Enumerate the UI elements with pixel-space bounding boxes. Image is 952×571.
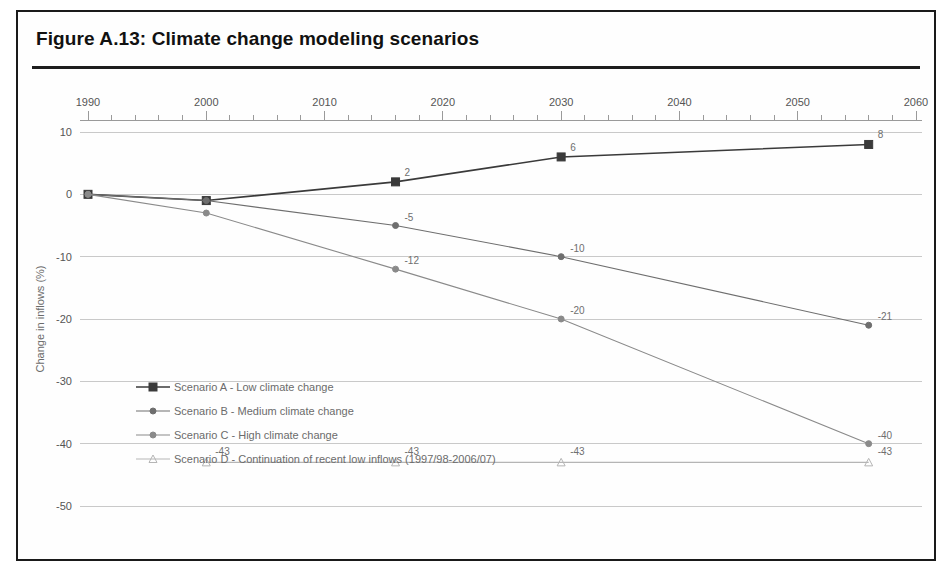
chart-plot-area: 19902000201020202030204020502060 100-10-… <box>18 74 934 559</box>
legend-item[interactable]: Scenario B - Medium climate change <box>136 405 354 417</box>
data-point-marker <box>203 198 209 204</box>
chart-legend: Scenario A - Low climate changeScenario … <box>136 381 496 465</box>
data-point-marker <box>557 153 565 161</box>
data-point-marker <box>393 266 399 272</box>
y-tick-labels-group: 100-10-20-30-40-50 <box>56 126 72 512</box>
title-divider <box>32 66 920 69</box>
data-point-marker <box>866 322 872 328</box>
data-point-label: 6 <box>570 142 576 153</box>
y-tick-label: -30 <box>56 375 72 387</box>
y-tick-label: 10 <box>60 126 72 138</box>
x-tick-label: 2010 <box>312 96 336 108</box>
data-point-marker <box>150 432 156 438</box>
x-tick-label: 1990 <box>76 96 100 108</box>
data-point-label: 2 <box>405 167 411 178</box>
data-point-label: 8 <box>878 129 884 140</box>
legend-item[interactable]: Scenario D - Continuation of recent low … <box>136 453 496 465</box>
data-point-marker <box>203 210 209 216</box>
data-point-marker <box>558 254 564 260</box>
legend-label: Scenario C - High climate change <box>174 429 338 441</box>
data-point-marker <box>150 408 156 414</box>
y-tick-label: -40 <box>56 438 72 450</box>
line-chart: 19902000201020202030204020502060 100-10-… <box>18 74 934 559</box>
legend-item[interactable]: Scenario A - Low climate change <box>136 381 334 393</box>
figure-panel: Figure A.13: Climate change modeling sce… <box>16 10 936 561</box>
data-point-marker <box>85 191 91 197</box>
x-tick-label: 2030 <box>549 96 573 108</box>
legend-label: Scenario D - Continuation of recent low … <box>174 453 496 465</box>
data-point-label: -43 <box>570 446 585 457</box>
x-tick-label: 2040 <box>667 96 691 108</box>
data-point-marker <box>865 140 873 148</box>
data-point-marker <box>393 223 399 229</box>
data-series-group <box>84 140 873 465</box>
y-axis-title-group: Change in inflows (%) <box>34 266 46 373</box>
gridlines-group <box>80 132 922 506</box>
y-tick-label: -50 <box>56 500 72 512</box>
x-axis-group: 19902000201020202030204020502060 <box>76 96 928 120</box>
y-tick-label: -20 <box>56 313 72 325</box>
y-tick-label: 0 <box>66 188 72 200</box>
x-tick-label: 2060 <box>904 96 928 108</box>
data-point-label: -40 <box>878 430 893 441</box>
data-point-label: -21 <box>878 311 893 322</box>
data-point-marker <box>392 178 400 186</box>
x-tick-label: 2000 <box>194 96 218 108</box>
data-point-label: -20 <box>570 305 585 316</box>
data-point-marker <box>149 383 157 391</box>
legend-label: Scenario A - Low climate change <box>174 381 334 393</box>
data-point-label: -5 <box>405 212 414 223</box>
data-point-marker <box>866 441 872 447</box>
data-point-label: -10 <box>570 243 585 254</box>
series-line <box>88 144 869 200</box>
legend-label: Scenario B - Medium climate change <box>174 405 354 417</box>
figure-title: Figure A.13: Climate change modeling sce… <box>36 28 479 50</box>
x-tick-label: 2020 <box>431 96 455 108</box>
series-a <box>84 140 873 204</box>
data-point-label: -12 <box>405 255 420 266</box>
data-point-marker <box>558 316 564 322</box>
y-axis-title: Change in inflows (%) <box>34 266 46 373</box>
x-tick-label: 2050 <box>785 96 809 108</box>
y-tick-label: -10 <box>56 251 72 263</box>
legend-item[interactable]: Scenario C - High climate change <box>136 429 338 441</box>
data-point-label: -43 <box>878 446 893 457</box>
